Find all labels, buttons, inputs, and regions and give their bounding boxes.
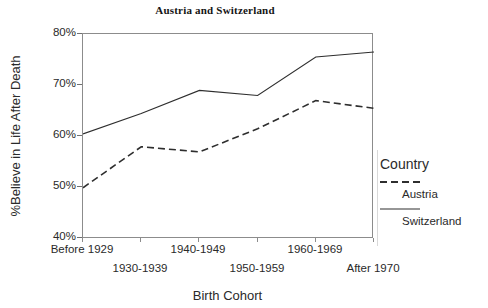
legend-label-austria: Austria [380,187,486,202]
legend-swatch-dashed-icon [380,177,426,187]
legend-swatch-solid-icon [380,204,426,214]
y-tick-label-40: 40% [36,230,76,242]
x-tick-label-after-1970: After 1970 [346,262,399,274]
y-axis-tick-labels: 80% 70% 60% 50% 40% [36,0,76,308]
x-tick-label-1950-1959: 1950-1959 [230,262,285,274]
legend-label-switzerland: Switzerland [380,214,486,229]
x-tick-label-before-1929: Before 1929 [51,243,114,255]
legend: Country Austria Switzerland [380,156,486,231]
y-tick-label-80: 80% [36,26,76,38]
y-axis-label-container: %Believe in Life After Death [6,33,24,238]
x-tick-mark-5 [373,238,374,242]
x-tick-mark-3 [257,238,258,242]
x-tick-label-1940-1949: 1940-1949 [171,243,226,255]
legend-item-austria[interactable]: Austria [380,177,486,202]
x-tick-mark-2 [198,238,199,242]
x-tick-mark-0 [82,238,83,242]
y-tick-label-70: 70% [36,77,76,89]
x-axis-label: Birth Cohort [82,288,373,303]
legend-title: Country [380,156,486,172]
y-axis-label: %Believe in Life After Death [8,55,23,216]
x-tick-label-1930-1939: 1930-1939 [113,262,168,274]
chart-container: Austria and Switzerland %Believe in Life… [0,0,488,308]
legend-item-switzerland[interactable]: Switzerland [380,204,486,229]
plot-svg [83,34,374,239]
y-tick-label-60: 60% [36,128,76,140]
x-tick-mark-4 [315,238,316,242]
x-tick-mark-1 [140,238,141,242]
legend-divider [377,150,378,246]
x-tick-label-1960-1969: 1960-1969 [288,243,343,255]
series-line-austria [83,101,374,188]
plot-area [82,33,373,238]
y-tick-label-50: 50% [36,179,76,191]
series-line-switzerland [83,52,374,134]
